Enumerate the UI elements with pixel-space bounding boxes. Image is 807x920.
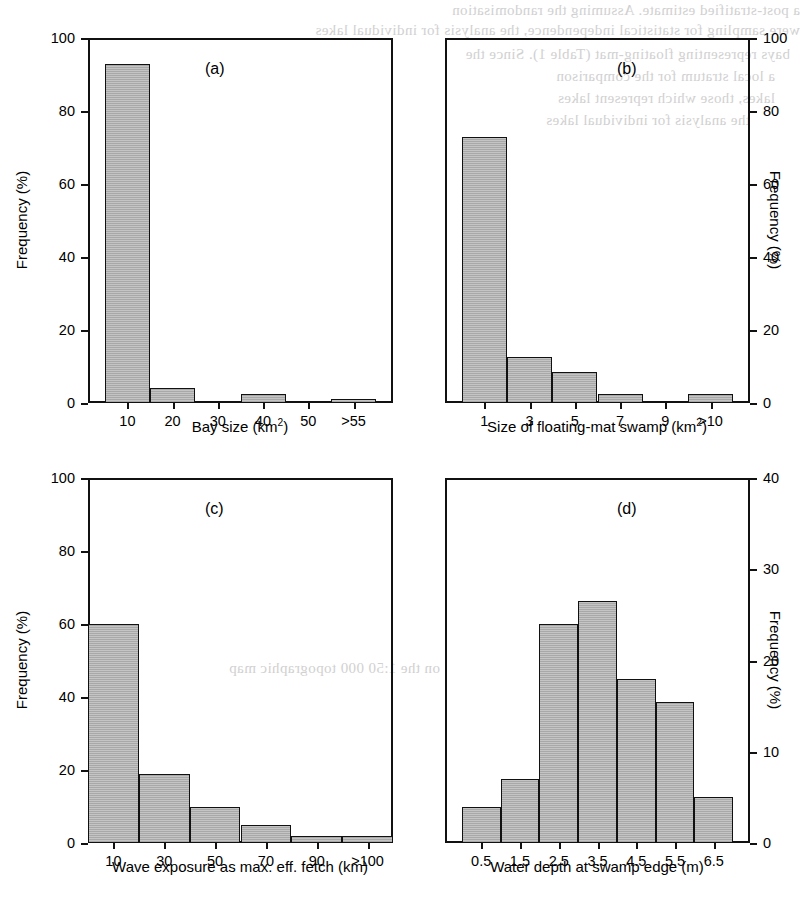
y-tick-d <box>750 752 757 754</box>
y-tick-label-d: 40 <box>763 470 807 486</box>
bar-d-3 <box>578 601 617 843</box>
y-tick-label-d: 30 <box>763 561 807 577</box>
y-tick-d <box>750 478 757 480</box>
x-tick-d <box>481 843 483 849</box>
bar-d-4 <box>617 679 656 843</box>
x-tick-d <box>675 843 677 849</box>
y-axis-title-d: Frequency (%) <box>767 611 784 709</box>
x-tick-d <box>520 843 522 849</box>
figure-four-histograms: a post-stratified estimate. Assuming the… <box>0 0 807 920</box>
y-tick-d <box>750 569 757 571</box>
panel-d: (d)010203040Frequency (%)0.51.52.53.54.5… <box>0 0 807 920</box>
x-axis-title-d: Water depth at swamp edge (m) <box>490 858 704 875</box>
bar-d-1 <box>501 779 540 843</box>
bar-d-5 <box>656 702 695 843</box>
panel-label-d: (d) <box>617 500 637 518</box>
bar-d-2 <box>539 624 578 843</box>
x-tick-label-d: 0.5 <box>471 853 491 869</box>
x-tick-label-d: 6.5 <box>704 853 724 869</box>
y-tick-label-d: 10 <box>763 744 807 760</box>
bar-d-0 <box>462 807 501 844</box>
y-tick-d <box>750 661 757 663</box>
bar-d-6 <box>694 797 733 843</box>
y-tick-label-d: 0 <box>763 835 807 851</box>
x-tick-d <box>559 843 561 849</box>
y-tick-d <box>750 843 757 845</box>
x-tick-d <box>636 843 638 849</box>
x-tick-d <box>598 843 600 849</box>
x-tick-d <box>714 843 716 849</box>
